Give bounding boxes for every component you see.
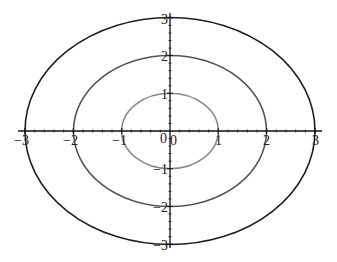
x-tick-label: 3 bbox=[312, 133, 319, 148]
y-tick-label: −3 bbox=[153, 238, 168, 253]
y-tick-label: −2 bbox=[153, 200, 168, 215]
x-tick-label: 1 bbox=[215, 133, 222, 148]
y-tick-label: −1 bbox=[153, 162, 168, 177]
x-axis: −3 −2 −1 0 1 2 3 bbox=[14, 128, 322, 148]
y-tick-label: 1 bbox=[161, 87, 168, 102]
x-tick-label: −1 bbox=[112, 133, 127, 148]
y-axis: 3 2 1 0 −1 −2 −3 bbox=[153, 12, 173, 253]
x-tick-label: 2 bbox=[263, 133, 270, 148]
y-tick-label: 2 bbox=[161, 49, 168, 64]
x-tick-label: −3 bbox=[14, 133, 29, 148]
chart-plot: −3 −2 −1 0 1 2 3 bbox=[0, 0, 337, 262]
x-tick-label: −2 bbox=[63, 133, 78, 148]
y-tick-label: 0 bbox=[160, 131, 167, 146]
y-tick-label: 3 bbox=[161, 12, 168, 27]
